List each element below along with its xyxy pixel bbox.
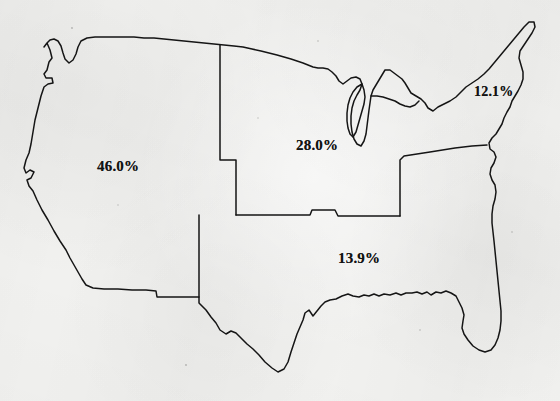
map-outline-svg bbox=[0, 0, 560, 401]
divider-west-midwest bbox=[220, 45, 236, 215]
scan-artifacts bbox=[71, 27, 513, 366]
region-label-midwest: 28.0% bbox=[296, 137, 338, 154]
divider-midwest-northeast bbox=[400, 145, 487, 216]
us-regional-percentage-map: 46.0% 28.0% 12.1% 13.9% bbox=[0, 0, 560, 401]
great-lakes-michigan-detail bbox=[347, 84, 365, 137]
divider-midwest-south bbox=[236, 210, 400, 216]
region-label-west: 46.0% bbox=[97, 158, 139, 175]
region-label-south: 13.9% bbox=[338, 250, 380, 267]
region-label-northeast: 12.1% bbox=[474, 84, 514, 100]
usa-national-outline bbox=[24, 22, 535, 372]
lake-erie-ontario-shore bbox=[371, 96, 419, 107]
